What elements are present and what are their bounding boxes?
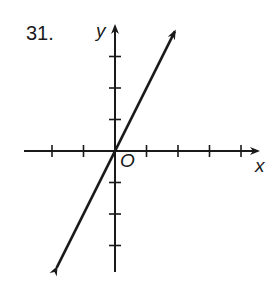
coordinate-plane xyxy=(0,0,276,293)
axes xyxy=(24,26,258,272)
